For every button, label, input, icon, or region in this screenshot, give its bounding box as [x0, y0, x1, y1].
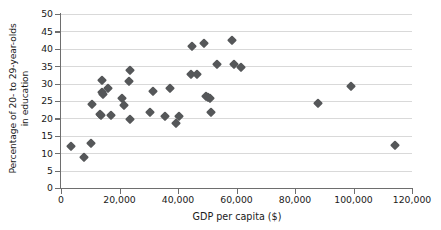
- x-axis-tick-label: 60,000: [220, 195, 253, 204]
- x-axis-tick: [61, 189, 62, 194]
- y-axis-tick: [55, 101, 60, 102]
- y-axis-tick: [55, 49, 60, 50]
- x-tick-label-group: 020,00040,00060,00080,000100,000120,000: [0, 0, 441, 230]
- x-axis-tick: [412, 189, 413, 194]
- y-axis-tick: [55, 31, 60, 32]
- x-axis-title: GDP per capita ($): [61, 211, 413, 222]
- y-axis-tick: [55, 153, 60, 154]
- scatter-chart: Percentage of 20- to 29-year-olds in edu…: [0, 0, 441, 230]
- x-axis-tick: [178, 189, 179, 194]
- x-axis-tick: [295, 189, 296, 194]
- y-axis-tick: [55, 171, 60, 172]
- x-axis-tick-label: 120,000: [393, 195, 431, 204]
- y-axis-tick: [55, 118, 60, 119]
- y-axis-tick: [55, 66, 60, 67]
- y-axis-tick: [55, 188, 60, 189]
- y-axis-tick: [55, 136, 60, 137]
- x-axis-tick-label: 80,000: [279, 195, 312, 204]
- x-axis-tick-label: 20,000: [103, 195, 136, 204]
- x-axis-tick-label: 40,000: [162, 195, 195, 204]
- y-axis-tick: [55, 84, 60, 85]
- x-axis-tick: [237, 189, 238, 194]
- x-axis-tick: [120, 189, 121, 194]
- x-axis-tick-label: 0: [58, 195, 64, 204]
- x-axis-tick: [354, 189, 355, 194]
- y-axis-tick: [55, 14, 60, 15]
- x-axis-tick-label: 100,000: [334, 195, 372, 204]
